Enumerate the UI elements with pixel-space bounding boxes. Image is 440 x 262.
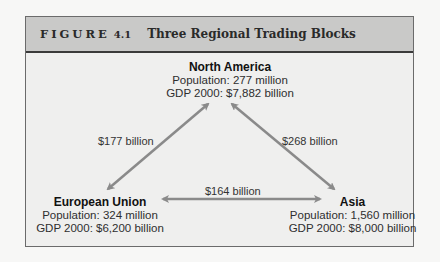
node-asia: Asia Population: 1,560 million GDP 2000:… bbox=[275, 196, 430, 235]
node-gdp: GDP 2000: $6,200 billion bbox=[25, 222, 175, 235]
edge-label-eu-asia: $164 billion bbox=[205, 185, 261, 197]
node-european-union: European Union Population: 324 million G… bbox=[25, 196, 175, 235]
node-population: Population: 1,560 million bbox=[275, 209, 430, 222]
node-name: Asia bbox=[275, 196, 430, 209]
edge-label-na-eu: $177 billion bbox=[98, 135, 154, 147]
edge-label-na-asia: $268 billion bbox=[282, 135, 338, 147]
node-gdp: GDP 2000: $8,000 billion bbox=[275, 222, 430, 235]
node-name: European Union bbox=[25, 196, 175, 209]
node-gdp: GDP 2000: $7,882 billion bbox=[150, 87, 310, 100]
node-population: Population: 277 million bbox=[150, 74, 310, 87]
node-north-america: North America Population: 277 million GD… bbox=[150, 61, 310, 100]
node-name: North America bbox=[150, 61, 310, 74]
node-population: Population: 324 million bbox=[25, 209, 175, 222]
